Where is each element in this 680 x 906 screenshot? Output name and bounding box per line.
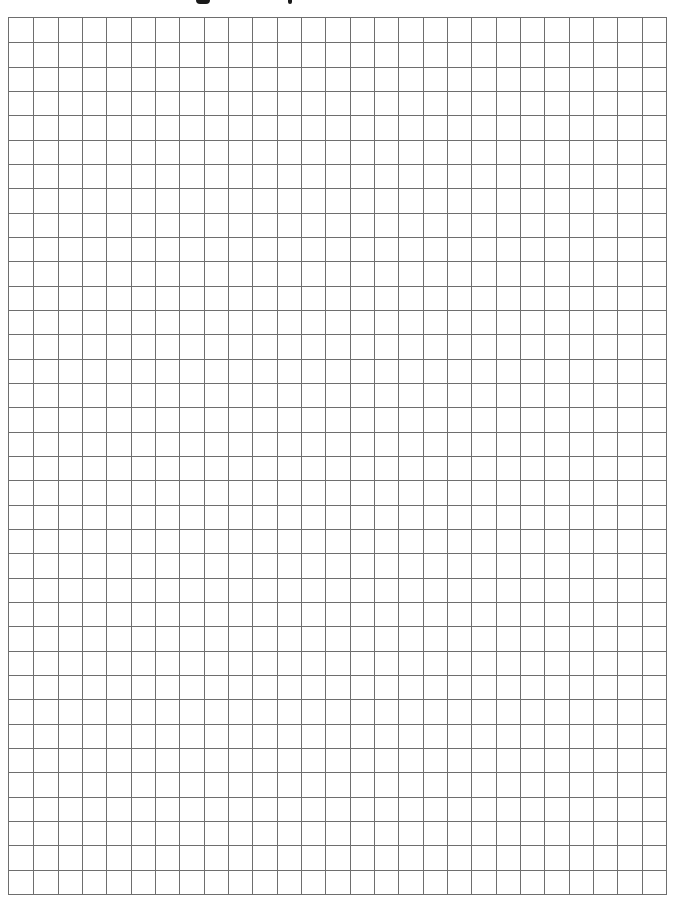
grid-lines [9, 18, 666, 894]
cropped-title-descenders [0, 0, 680, 8]
title-descender-fragment [288, 0, 292, 4]
graph-paper-grid [8, 17, 667, 895]
title-descender-fragment [196, 0, 210, 4]
